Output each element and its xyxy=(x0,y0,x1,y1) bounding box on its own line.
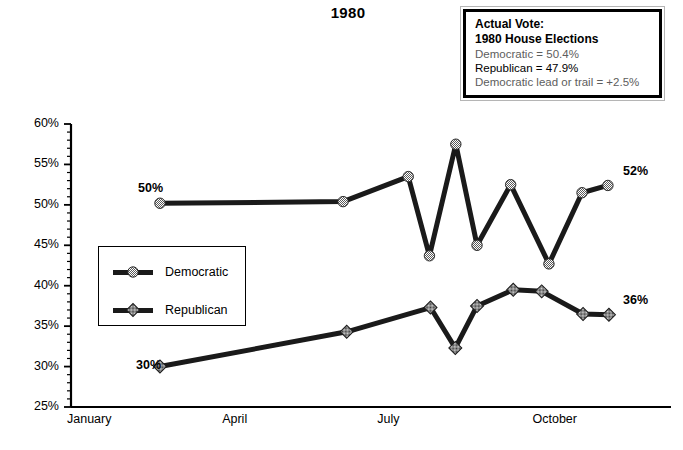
data-point-republican xyxy=(340,325,353,338)
y-axis-tick-label: 40% xyxy=(15,278,59,292)
data-point-republican xyxy=(602,308,615,321)
data-point-democratic xyxy=(403,171,413,181)
y-axis-tick-label: 45% xyxy=(15,237,59,251)
data-point-democratic xyxy=(451,139,461,149)
data-point-democratic xyxy=(338,196,348,206)
y-axis-tick-label: 25% xyxy=(15,399,59,413)
chart-root: 1980 Actual Vote: 1980 House Elections D… xyxy=(0,0,683,450)
chart-canvas xyxy=(0,0,683,450)
y-axis-tick-label: 35% xyxy=(15,318,59,332)
checkered-circle-marker xyxy=(111,264,155,280)
legend-item-label: Democratic xyxy=(165,265,228,279)
plot-area: 25%30%35%40%45%50%55%60% JanuaryAprilJul… xyxy=(0,0,683,450)
legend-marker-glyph xyxy=(111,302,155,318)
y-axis-tick-label: 30% xyxy=(15,359,59,373)
data-point-democratic xyxy=(603,180,613,190)
x-axis-tick-label: January xyxy=(67,412,111,426)
republican-start-label: 30% xyxy=(136,358,161,372)
legend-item-label: Republican xyxy=(165,303,228,317)
data-point-democratic xyxy=(544,259,554,269)
data-point-democratic xyxy=(424,251,434,261)
republican-end-label: 36% xyxy=(623,293,648,307)
chart-legend: DemocraticRepublican xyxy=(98,246,246,326)
data-point-democratic xyxy=(505,179,515,189)
legend-item-republican[interactable]: Republican xyxy=(99,299,245,321)
data-point-democratic xyxy=(472,240,482,250)
legend-item-democratic[interactable]: Democratic xyxy=(99,261,245,283)
data-point-democratic xyxy=(155,198,165,208)
data-point-democratic xyxy=(577,188,587,198)
legend-marker-glyph xyxy=(111,264,155,280)
x-axis-tick-label: October xyxy=(533,412,577,426)
democratic-start-label: 50% xyxy=(138,181,163,195)
y-axis-tick-label: 60% xyxy=(15,116,59,130)
checkered-diamond-marker xyxy=(111,302,155,318)
x-axis-tick-label: April xyxy=(222,412,247,426)
democratic-end-label: 52% xyxy=(623,164,648,178)
y-axis-tick-label: 50% xyxy=(15,197,59,211)
x-axis-tick-label: July xyxy=(377,412,399,426)
y-axis-tick-label: 55% xyxy=(15,156,59,170)
